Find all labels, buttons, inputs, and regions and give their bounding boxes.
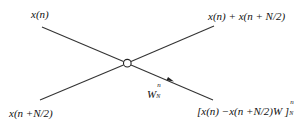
edge-junction-to-bottom-right xyxy=(131,65,213,100)
edge-junction-to-top-right xyxy=(131,26,214,62)
edge-top-left-to-junction xyxy=(42,27,124,62)
output-bottom-superscript: n xyxy=(290,99,294,106)
edge-bottom-left-to-junction xyxy=(40,65,124,100)
junction-node xyxy=(124,59,132,67)
label-output-top: x(n) + x(n + N/2) xyxy=(208,11,285,22)
twiddle-subscript: N xyxy=(156,93,160,99)
output-top-text: x(n) + x(n + N/2) xyxy=(208,10,285,22)
twiddle-scripts: nN xyxy=(156,87,162,98)
label-input-top: x(n) xyxy=(31,9,49,20)
butterfly-diagram: x(n) x(n) + x(n + N/2) x(n +N/2) WnN [x(… xyxy=(0,0,304,129)
output-bottom-subscript: N xyxy=(289,110,293,116)
output-bottom-text: [x(n) −x(n +N/2)W ] xyxy=(197,105,289,117)
input-bottom-text: x(n +N/2) xyxy=(9,107,53,119)
twiddle-superscript: n xyxy=(157,82,161,89)
twiddle-main-text: W xyxy=(147,88,156,100)
label-output-bottom: [x(n) −x(n +N/2)W ]nN xyxy=(197,104,295,117)
input-top-text: x(n) xyxy=(31,8,49,20)
label-twiddle-factor: WnN xyxy=(147,87,162,100)
label-input-bottom: x(n +N/2) xyxy=(9,108,53,119)
output-bottom-scripts: nN xyxy=(289,104,295,115)
